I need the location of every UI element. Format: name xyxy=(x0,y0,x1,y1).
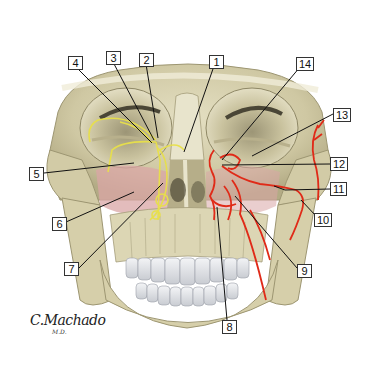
leader-line-11 xyxy=(274,186,330,190)
label-11: 11 xyxy=(330,182,347,196)
leader-line-2 xyxy=(146,64,158,138)
label-9: 9 xyxy=(297,264,312,278)
label-2: 2 xyxy=(139,53,154,67)
label-5: 5 xyxy=(29,167,44,181)
leader-line-1 xyxy=(184,66,214,152)
artist-signature: C.Machado xyxy=(30,312,105,328)
label-4: 4 xyxy=(68,56,83,70)
label-6: 6 xyxy=(52,217,67,231)
label-13: 13 xyxy=(333,108,351,122)
leader-line-6 xyxy=(66,192,134,222)
leader-line-9 xyxy=(235,196,297,268)
anatomy-figure: 1 2 3 4 5 6 7 8 9 10 11 12 13 14 C.Macha… xyxy=(0,0,374,371)
leader-line-7 xyxy=(79,183,163,268)
label-14: 14 xyxy=(296,57,314,71)
leader-line-14 xyxy=(222,67,300,160)
label-12: 12 xyxy=(330,157,348,171)
label-3: 3 xyxy=(106,51,121,65)
leader-line-5 xyxy=(44,163,134,173)
label-10: 10 xyxy=(314,213,332,227)
label-8: 8 xyxy=(222,320,237,334)
artist-credential: M.D. xyxy=(52,328,67,335)
label-1: 1 xyxy=(209,55,224,69)
label-7: 7 xyxy=(64,262,79,276)
leader-line-4 xyxy=(76,67,152,143)
leader-line-8 xyxy=(217,207,227,320)
leader-line-12 xyxy=(222,164,330,165)
leader-line-13 xyxy=(252,114,333,156)
